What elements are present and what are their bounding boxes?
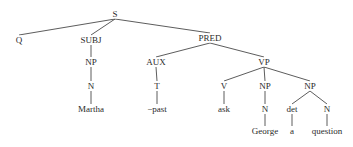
edge-aux-t — [156, 67, 157, 81]
edge-np3-n3 — [310, 91, 327, 104]
edge-pred-aux — [156, 43, 210, 57]
tree-node-george: George — [251, 127, 279, 136]
tree-node-det: det — [286, 105, 299, 114]
tree-node-ask: ask — [217, 105, 231, 114]
tree-node-vp: VP — [257, 58, 271, 67]
edge-vp-v — [224, 67, 264, 81]
tree-node-pred: PRED — [197, 34, 222, 43]
tree-node-n1: N — [87, 82, 96, 91]
edge-s-pred — [115, 19, 210, 33]
tree-node-n2: N — [261, 105, 270, 114]
edge-s-q — [19, 19, 115, 35]
tree-node-v: V — [220, 82, 229, 91]
tree-node-np3: NP — [303, 82, 317, 91]
tree-node-aux: AUX — [145, 58, 167, 67]
edge-pred-vp — [210, 43, 264, 57]
tree-node-question: question — [311, 127, 344, 136]
tree-node-s: S — [111, 10, 118, 19]
tree-node-n3: N — [323, 105, 332, 114]
tree-node-subj: SUBJ — [79, 36, 102, 45]
tree-node-past: −past — [146, 105, 168, 114]
tree-node-np1: NP — [84, 58, 98, 67]
tree-node-martha: Martha — [77, 105, 105, 114]
tree-node-t: T — [153, 82, 161, 91]
edge-np3-det — [292, 91, 310, 104]
tree-node-q: Q — [15, 36, 24, 45]
tree-node-np2: NP — [258, 82, 272, 91]
tree-node-a: a — [289, 127, 295, 136]
edge-vp-np3 — [264, 67, 310, 81]
tree-edges — [0, 0, 353, 147]
edge-vp-np2 — [264, 67, 265, 81]
